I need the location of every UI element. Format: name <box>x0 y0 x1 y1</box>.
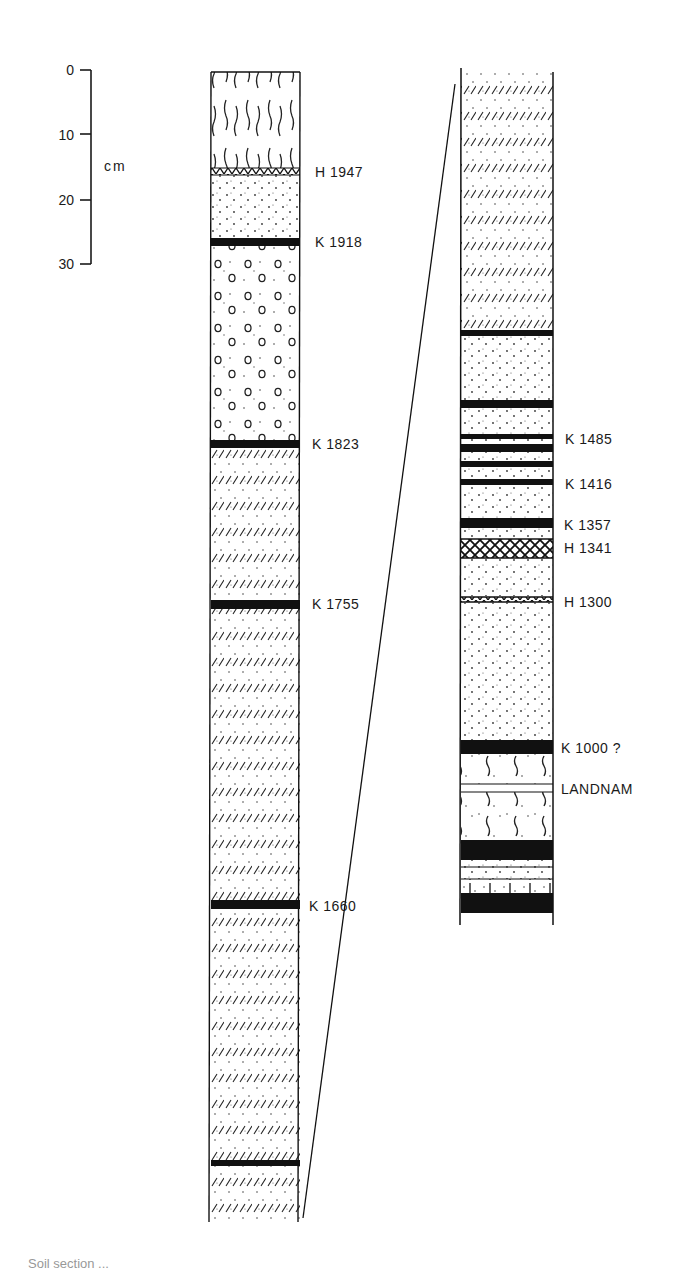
figure-caption-partial: Soil section ... <box>28 1256 109 1271</box>
label-k1660: K 1660 <box>309 898 356 914</box>
right-column <box>460 68 553 925</box>
label-h1341: H 1341 <box>564 540 612 556</box>
scale-tick-10: 10 <box>34 127 74 143</box>
label-k1823: K 1823 <box>312 436 359 452</box>
scale-bar <box>80 70 91 264</box>
label-h1300: H 1300 <box>564 594 612 610</box>
scale-tick-30: 30 <box>34 256 74 272</box>
label-landnam: LANDNAM <box>561 781 633 797</box>
left-column <box>209 72 300 1222</box>
label-k1918: K 1918 <box>315 234 362 250</box>
label-k1485: K 1485 <box>565 431 612 447</box>
scale-unit-label: cm <box>104 158 127 174</box>
label-k1755: K 1755 <box>312 596 359 612</box>
label-k1357: K 1357 <box>564 517 611 533</box>
label-k1000: K 1000 ? <box>561 740 621 756</box>
scale-tick-20: 20 <box>34 192 74 208</box>
correlation-line <box>303 84 455 1218</box>
label-h1947: H 1947 <box>315 164 363 180</box>
label-k1416: K 1416 <box>565 476 612 492</box>
scale-tick-0: 0 <box>34 62 74 78</box>
